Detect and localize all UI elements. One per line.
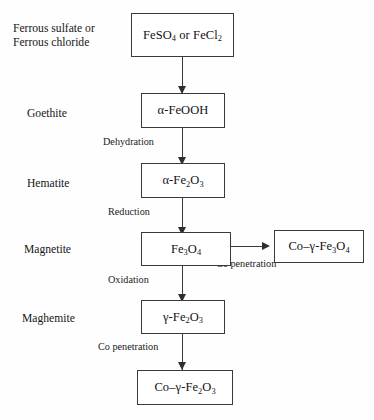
- edge-label-co-penetration-maghemite: Co penetration: [98, 341, 158, 352]
- phase-label-precursor-line1: Ferrous sulfate or: [13, 22, 95, 36]
- node-hematite-formula: α-Fe2O3: [162, 174, 203, 187]
- arrowhead-magnetite-co-magnetite: [262, 242, 270, 250]
- node-maghemite[interactable]: γ-Fe2O3: [141, 300, 225, 334]
- node-co-maghemite[interactable]: Co–γ-Fe2O3: [137, 370, 233, 405]
- node-precursor[interactable]: FeSO4 or FeCl2: [131, 13, 234, 57]
- flowchart-canvas: Ferrous sulfate or Ferrous chloride Goet…: [0, 0, 374, 420]
- arrowhead-maghemite-co-maghemite: [178, 362, 186, 370]
- node-hematite[interactable]: α-Fe2O3: [141, 163, 225, 198]
- phase-label-precursor: Ferrous sulfate or Ferrous chloride: [13, 22, 95, 49]
- node-magnetite-formula: Fe3O4: [171, 243, 201, 256]
- node-goethite[interactable]: α-FeOOH: [141, 93, 225, 128]
- phase-label-goethite: Goethite: [27, 107, 67, 121]
- node-goethite-formula: α-FeOOH: [158, 104, 209, 117]
- node-co-magnetite-formula: Co–γ-Fe3O4: [288, 240, 349, 253]
- node-maghemite-formula: γ-Fe2O3: [163, 311, 203, 324]
- edge-label-dehydration: Dehydration: [103, 136, 154, 147]
- node-co-magnetite[interactable]: Co–γ-Fe3O4: [274, 230, 364, 263]
- node-precursor-formula: FeSO4 or FeCl2: [143, 29, 222, 42]
- phase-label-maghemite: Maghemite: [22, 312, 75, 326]
- phase-label-precursor-line2: Ferrous chloride: [13, 36, 95, 50]
- edge-label-reduction: Reduction: [108, 206, 150, 217]
- node-magnetite[interactable]: Fe3O4: [141, 232, 231, 266]
- edge-label-oxidation: Oxidation: [108, 274, 149, 285]
- phase-label-hematite: Hematite: [27, 177, 70, 191]
- phase-label-magnetite: Magnetite: [24, 243, 71, 257]
- node-co-maghemite-formula: Co–γ-Fe2O3: [154, 381, 215, 394]
